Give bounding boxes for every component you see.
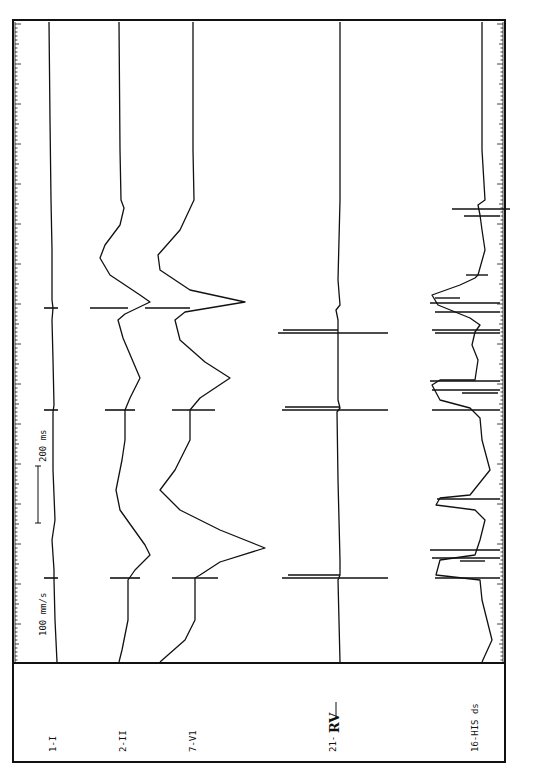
scale-bar-200ms	[35, 466, 41, 523]
outer-frame	[13, 20, 505, 762]
trace-RV	[336, 22, 340, 662]
rv-electrograms	[278, 330, 388, 578]
channel-label-RV-prefix: 21-	[328, 736, 338, 752]
left-time-ruler	[15, 22, 21, 662]
trace-lead-II	[100, 22, 150, 662]
trace-lead-V1	[158, 22, 265, 662]
scale-bar-label: 200 ms	[38, 429, 48, 462]
ecg-tracing: 200 ms 100 mm/s 1-I 2-II 7-V1 21- RV 16-…	[0, 0, 534, 770]
channel-label-RV-handwritten: RV	[327, 712, 342, 733]
channel-label-lead-II: 2-II	[118, 730, 128, 752]
paper-speed-label: 100 mm/s	[38, 593, 48, 636]
channel-label-lead-I: 1-I	[48, 736, 58, 752]
trace-lead-I	[49, 22, 57, 662]
trace-HIS-ds	[432, 22, 492, 662]
channel-label-lead-V1: 7-V1	[188, 730, 198, 752]
right-time-ruler	[497, 22, 503, 662]
channel-label-HIS-ds: 16-HIS ds	[470, 703, 480, 752]
